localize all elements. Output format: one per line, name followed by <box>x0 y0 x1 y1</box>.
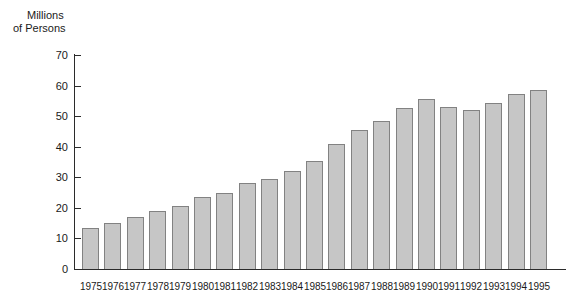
bar <box>485 103 502 269</box>
bar <box>306 161 323 269</box>
x-axis-tick-label: 1995 <box>519 281 559 292</box>
bar <box>351 130 368 269</box>
bar <box>194 197 211 269</box>
y-axis-tick <box>75 55 81 56</box>
bar <box>508 94 525 269</box>
y-axis-tick-label: 20 <box>38 203 68 214</box>
bar <box>463 110 480 269</box>
bar <box>261 179 278 269</box>
bar <box>396 108 413 269</box>
plot-area: 010203040506070 197519761977197819791980… <box>0 0 580 303</box>
bar <box>104 223 121 269</box>
bar <box>82 228 99 269</box>
y-axis-tick-label-text: 10 <box>38 233 68 244</box>
bar-chart-figure: Millions of Persons 010203040506070 1975… <box>0 0 580 303</box>
y-axis-tick-label: 70 <box>38 50 68 61</box>
y-axis-tick-label-text: 70 <box>38 50 68 61</box>
bar <box>530 90 547 269</box>
y-axis-tick-label: 10 <box>38 233 68 244</box>
bar <box>373 121 390 269</box>
y-axis-tick <box>75 147 81 148</box>
bar <box>328 144 345 269</box>
y-axis-tick <box>75 208 81 209</box>
y-axis-tick <box>75 238 81 239</box>
bar <box>172 206 189 269</box>
y-axis-tick <box>75 86 81 87</box>
y-axis-tick-label-text: 60 <box>38 81 68 92</box>
y-axis-tick-label-text: 50 <box>38 111 68 122</box>
bar <box>440 107 457 269</box>
bar <box>418 99 435 269</box>
y-axis-tick-label: 40 <box>38 142 68 153</box>
y-axis-tick <box>75 116 81 117</box>
x-axis-line <box>74 269 566 270</box>
bar <box>239 183 256 269</box>
y-axis-tick-label-text: 40 <box>38 142 68 153</box>
y-axis-tick <box>75 269 81 270</box>
bar <box>149 211 166 269</box>
y-axis-tick-label: 30 <box>38 172 68 183</box>
y-axis-tick-label-text: 20 <box>38 203 68 214</box>
y-axis-tick <box>75 177 81 178</box>
y-axis-tick-label: 60 <box>38 81 68 92</box>
y-axis-tick-label: 0 <box>38 264 68 275</box>
bar <box>127 217 144 269</box>
bar <box>216 193 233 269</box>
y-axis-tick-label-text: 30 <box>38 172 68 183</box>
bar <box>284 171 301 269</box>
y-axis-tick-label-text: 0 <box>38 264 68 275</box>
y-axis-tick-label: 50 <box>38 111 68 122</box>
